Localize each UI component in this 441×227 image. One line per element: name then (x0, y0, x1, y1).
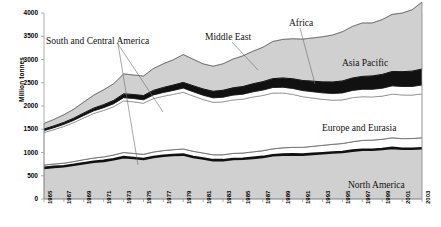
x-tick-label: 1967 (66, 191, 72, 204)
x-tick-label: 1995 (345, 191, 351, 204)
x-tick-label: 1987 (265, 191, 271, 204)
annotation-label-middle-east: Middle East (205, 32, 251, 42)
y-tick-label: 0 (8, 195, 38, 202)
y-tick-label: 2500 (8, 79, 38, 86)
y-tick-label: 2000 (8, 102, 38, 109)
y-tick-label: 4000 (8, 9, 38, 16)
x-tick-label: 1965 (47, 191, 53, 204)
x-tick-label: 1993 (325, 191, 331, 204)
x-tick-label: 1973 (126, 191, 132, 204)
annotation-label-africa: Africa (289, 18, 313, 28)
annotation-label-south-and-central-america: South and Central America (46, 36, 149, 46)
y-tick-label: 500 (8, 172, 38, 179)
y-tick-label: 1500 (8, 125, 38, 132)
annotation-label-asia-pacific: Asia Pacific (342, 58, 388, 68)
x-tick-label: 1985 (245, 191, 251, 204)
x-tick-label: 1981 (206, 191, 212, 204)
x-tick-label: 1979 (186, 191, 192, 204)
x-tick-label: 1991 (305, 191, 311, 204)
chart-container: Million tonnes 4000350030002500200015001… (0, 0, 441, 227)
x-tick-label: 1975 (146, 191, 152, 204)
x-tick-label: 2001 (405, 191, 411, 204)
y-tick-label: 3000 (8, 56, 38, 63)
x-tick-label: 1971 (106, 191, 112, 204)
x-tick-label: 1989 (285, 191, 291, 204)
x-tick-label: 1983 (226, 191, 232, 204)
x-tick-label: 2003 (425, 191, 431, 204)
x-tick-label: 1977 (166, 191, 172, 204)
y-tick-label: 1000 (8, 149, 38, 156)
x-tick-label: 1997 (365, 191, 371, 204)
y-tick-label: 3500 (8, 32, 38, 39)
annotation-label-europe-and-eurasia: Europe and Eurasia (322, 123, 396, 133)
annotation-label-north-america: North America (348, 180, 405, 190)
x-tick-label: 1999 (385, 191, 391, 204)
x-tick-label: 1969 (86, 191, 92, 204)
